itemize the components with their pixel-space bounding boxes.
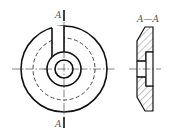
technical-drawing: A A A—A: [0, 0, 171, 136]
section-view: A—A: [129, 14, 161, 111]
front-view: A A: [12, 10, 116, 129]
section-view-title: A—A: [136, 14, 159, 24]
section-label-top: A: [54, 10, 62, 20]
slot-fill: [52, 26, 64, 55]
section-label-bottom: A: [54, 119, 62, 129]
